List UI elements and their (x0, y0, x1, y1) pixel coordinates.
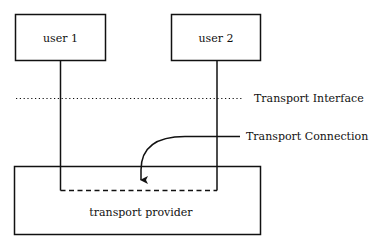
user-1-label: user 1 (43, 32, 78, 45)
user-2-label: user 2 (199, 32, 234, 45)
user-2-node: user 2 (172, 15, 261, 61)
connection-callout-arrow-icon (141, 137, 240, 181)
transport-provider-label: transport provider (89, 206, 193, 219)
transport-connection-label: Transport Connection (246, 130, 368, 143)
transport-provider-node: transport provider (15, 167, 261, 235)
transport-diagram: user 1 user 2 Transport Interface transp… (0, 0, 386, 249)
user-1-node: user 1 (16, 15, 106, 61)
transport-interface-label: Transport Interface (254, 92, 364, 105)
